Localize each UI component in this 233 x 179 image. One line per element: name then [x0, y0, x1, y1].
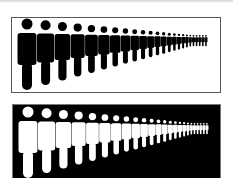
person-figure-icon [147, 31, 154, 57]
person-figure-icon [148, 119, 155, 145]
person-figure-icon [71, 24, 85, 77]
person-figure-icon [177, 34, 181, 50]
person-figure-icon [182, 122, 186, 136]
person-figure-icon [199, 123, 202, 134]
person-figure-icon [196, 123, 199, 134]
person-figure-icon [178, 122, 182, 138]
person-figure-icon [192, 35, 195, 46]
person-figure-icon [18, 19, 37, 91]
person-figure-icon [140, 118, 148, 147]
person-figure-icon [195, 35, 198, 46]
person-figure-icon [56, 110, 72, 169]
person-figure-icon [201, 35, 204, 46]
person-figure-icon [37, 20, 54, 85]
person-figure-icon [204, 35, 207, 46]
person-figure-icon [55, 22, 71, 81]
person-figure-icon [38, 108, 55, 173]
person-figure-icon [198, 35, 201, 46]
figure-row-white [13, 105, 221, 178]
person-figure-icon [202, 123, 205, 134]
person-figure-icon [85, 25, 98, 73]
person-figure-icon [168, 121, 173, 141]
person-figure-icon [98, 26, 110, 69]
figure-row-black [12, 18, 221, 93]
person-figure-icon [185, 34, 188, 47]
person-figure-icon [131, 117, 140, 149]
person-figure-icon [155, 119, 161, 143]
person-figure-icon [130, 29, 139, 61]
person-figure-icon [154, 31, 160, 55]
person-figure-icon [110, 27, 120, 66]
person-figure-icon [111, 115, 121, 154]
top-border-band [0, 0, 233, 3]
person-figure-icon [172, 33, 177, 51]
panel-black-figures-on-white [11, 17, 221, 93]
person-figure-icon [121, 28, 130, 64]
person-figure-icon [189, 35, 192, 47]
person-figure-icon [186, 122, 189, 135]
panel-white-figures-on-black [12, 104, 221, 178]
person-figure-icon [190, 123, 193, 135]
person-figure-icon [193, 123, 196, 134]
person-figure-icon [72, 112, 86, 165]
person-figure-icon [122, 116, 131, 152]
person-figure-icon [162, 120, 168, 142]
person-figure-icon [167, 33, 172, 53]
person-figure-icon [19, 107, 38, 179]
person-figure-icon [161, 32, 167, 54]
person-figure-icon [181, 34, 185, 48]
person-figure-icon [86, 113, 99, 161]
person-figure-icon [139, 30, 147, 59]
person-figure-icon [205, 123, 208, 134]
person-figure-icon [173, 121, 178, 139]
person-figure-icon [99, 114, 111, 157]
